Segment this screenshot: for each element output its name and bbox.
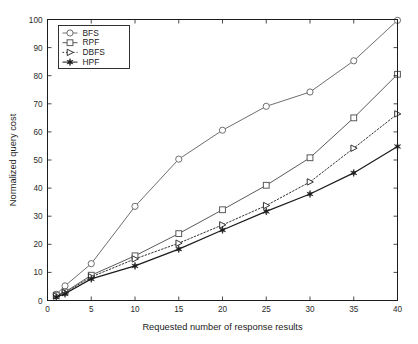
chart-figure: 01020304050607080901000510152025303540 R… <box>0 0 418 344</box>
data-point-marker <box>176 231 182 237</box>
data-point-marker <box>351 115 357 121</box>
x-axis-title: Requested number of response results <box>142 322 303 332</box>
x-tick-label: 15 <box>174 305 184 314</box>
y-tick-label: 90 <box>33 44 43 53</box>
legend-label: DBFS <box>83 47 106 57</box>
legend-label: HPF <box>83 57 100 67</box>
x-tick-label: 25 <box>262 305 272 314</box>
x-tick-label: 35 <box>349 305 359 314</box>
y-axis-title: Normalized query cost <box>8 113 18 206</box>
x-tick-label: 10 <box>130 305 140 314</box>
y-tick-label: 40 <box>33 184 43 193</box>
y-tick-label: 80 <box>33 72 43 81</box>
legend-label: RPF <box>83 37 100 47</box>
data-point-marker <box>62 283 68 289</box>
x-tick-label: 30 <box>305 305 315 314</box>
data-point-marker <box>132 203 138 209</box>
legend-label: BFS <box>83 28 100 38</box>
y-tick-label: 0 <box>38 297 43 306</box>
y-tick-label: 70 <box>33 100 43 109</box>
chart-legend: BFSRPFDBFSHPF <box>59 26 130 69</box>
data-point-marker <box>263 182 269 188</box>
data-point-marker <box>351 58 357 64</box>
x-tick-label: 40 <box>393 305 403 314</box>
data-point-marker <box>67 40 73 46</box>
data-point-marker <box>67 30 73 36</box>
x-tick-label: 0 <box>45 305 50 314</box>
y-tick-label: 60 <box>33 128 43 137</box>
x-tick-label: 20 <box>218 305 228 314</box>
y-tick-label: 10 <box>33 268 43 277</box>
data-point-marker <box>307 89 313 95</box>
y-tick-label: 30 <box>33 212 43 221</box>
data-point-marker <box>219 127 225 133</box>
x-tick-label: 5 <box>89 305 94 314</box>
y-tick-label: 20 <box>33 240 43 249</box>
data-point-marker <box>176 156 182 162</box>
data-point-marker <box>88 261 94 267</box>
data-point-marker <box>263 103 269 109</box>
y-tick-label: 50 <box>33 156 43 165</box>
y-tick-label: 100 <box>29 16 43 25</box>
data-point-marker <box>307 155 313 161</box>
line-chart: 01020304050607080901000510152025303540 R… <box>0 0 418 344</box>
data-point-marker <box>220 207 226 213</box>
